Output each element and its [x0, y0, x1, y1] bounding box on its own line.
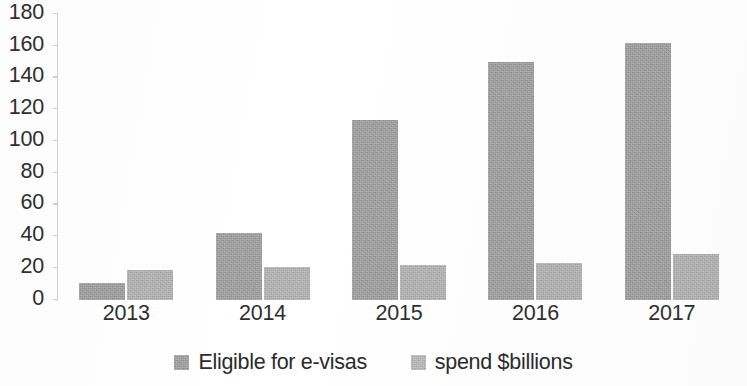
y-axis-tick-label: 100 [9, 129, 44, 151]
plot-area: 020406080100120140160180 [58, 14, 740, 300]
x-axis-tick: 2014 [194, 303, 330, 325]
x-axis-tick-label: 2016 [512, 301, 559, 325]
y-axis-tick-label: 20 [20, 256, 44, 278]
bar-grain-texture [352, 120, 398, 300]
x-axis-tick: 2015 [331, 303, 467, 325]
legend-swatch-grain-texture [411, 355, 426, 370]
bar-group-bars [331, 14, 467, 300]
bar-grain-texture [673, 254, 719, 300]
bar [488, 62, 534, 300]
legend-item[interactable]: spend $billions [411, 352, 573, 374]
y-axis-tick-label: 40 [20, 225, 44, 247]
bar-grain-texture [400, 265, 446, 300]
bar-grain-texture [625, 43, 671, 300]
bar [352, 120, 398, 300]
x-axis-tick-label: 2013 [103, 301, 150, 325]
legend-swatch-icon [174, 355, 189, 370]
legend-label: Eligible for e-visas [198, 352, 366, 374]
bar [216, 233, 262, 300]
bar [625, 43, 671, 300]
chart-legend: Eligible for e-visasspend $billions [0, 352, 747, 374]
bar-groups [58, 14, 740, 300]
y-axis-tick-label: 60 [20, 193, 44, 215]
bar-grain-texture [536, 263, 582, 300]
bar-group [194, 14, 330, 300]
y-axis-tick-label: 160 [9, 34, 44, 56]
bar [536, 263, 582, 300]
bar-chart: 020406080100120140160180 201320142015201… [0, 0, 747, 386]
legend-swatch-icon [411, 355, 426, 370]
bar-grain-texture [488, 62, 534, 300]
x-axis-tick: 2013 [58, 303, 194, 325]
bar-grain-texture [127, 270, 173, 300]
bar [400, 265, 446, 300]
bar-group-bars [194, 14, 330, 300]
legend-label: spend $billions [435, 352, 573, 374]
y-axis-tick-label: 140 [9, 66, 44, 88]
x-axis-tick-label: 2015 [376, 301, 423, 325]
y-axis-tick-label: 0 [32, 288, 44, 310]
bar-grain-texture [264, 267, 310, 300]
bar-grain-texture [79, 283, 125, 300]
x-axis-tick-label: 2014 [239, 301, 286, 325]
x-axis: 20132014201520162017 [58, 303, 740, 325]
bar [673, 254, 719, 300]
bar-group-bars [604, 14, 740, 300]
legend-swatch-grain-texture [174, 355, 189, 370]
bar-grain-texture [216, 233, 262, 300]
bar [264, 267, 310, 300]
legend-item[interactable]: Eligible for e-visas [174, 352, 366, 374]
bar-group-bars [467, 14, 603, 300]
x-axis-tick-label: 2017 [648, 301, 695, 325]
x-axis-tick: 2016 [467, 303, 603, 325]
bar [79, 283, 125, 300]
bar-group [467, 14, 603, 300]
x-axis-tick: 2017 [604, 303, 740, 325]
y-axis-tick-label: 120 [9, 97, 44, 119]
bar-group [331, 14, 467, 300]
y-axis-tick-label: 80 [20, 161, 44, 183]
bar-group-bars [58, 14, 194, 300]
bar-group [604, 14, 740, 300]
y-axis-tick-label: 180 [9, 2, 44, 24]
bar [127, 270, 173, 300]
bar-group [58, 14, 194, 300]
